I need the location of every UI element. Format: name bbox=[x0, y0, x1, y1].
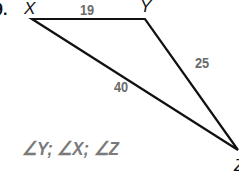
problem-number: 9. bbox=[0, 2, 7, 18]
side-xz-length: 40 bbox=[114, 79, 128, 94]
triangle-outline bbox=[32, 19, 238, 150]
side-yz-length: 25 bbox=[195, 55, 209, 70]
vertex-y-label: Y bbox=[140, 0, 151, 15]
vertex-x-label: X bbox=[24, 0, 35, 17]
vertex-z-label: Z bbox=[234, 157, 239, 171]
side-xy-length: 19 bbox=[80, 2, 94, 17]
answer-angle-order: ∠Y; ∠X; ∠Z bbox=[22, 139, 119, 158]
